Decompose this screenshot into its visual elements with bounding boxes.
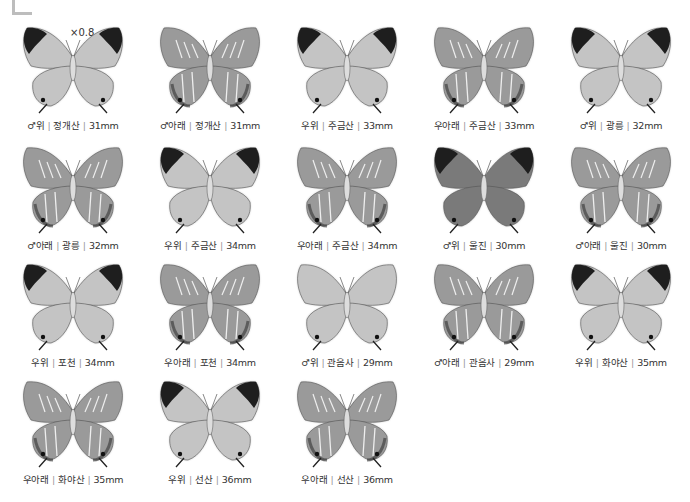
separator: | — [600, 120, 603, 131]
specimen-caption: 우아래|화야산|35mm — [10, 472, 136, 486]
sex-side: 우위 — [575, 357, 593, 368]
specimen-card: 우위|선산|36mm — [147, 372, 273, 492]
separator: | — [322, 120, 325, 131]
specimen-card: 우아래|주금산|34mm — [284, 138, 410, 258]
specimen-caption: 우위|주금산|33mm — [284, 118, 410, 132]
locality: 주금산 — [332, 240, 358, 251]
separator: | — [193, 357, 196, 368]
butterfly-image — [154, 18, 266, 114]
locality: 관음사 — [327, 357, 353, 368]
butterfly-image — [291, 18, 403, 114]
specimen-card: 우위|주금산|34mm — [147, 138, 273, 258]
specimen-caption: ♂아래|울진|30mm — [558, 238, 684, 252]
locality: 선산 — [337, 474, 355, 485]
sex-side: 우위 — [301, 120, 319, 131]
locality: 포천 — [58, 357, 76, 368]
separator: | — [216, 474, 219, 485]
size: 31mm — [89, 120, 119, 131]
size: 36mm — [222, 474, 252, 485]
butterfly-image — [154, 138, 266, 234]
specimen-caption: ♂아래|관음사|29mm — [421, 355, 547, 369]
specimen-card: ♂위|정개산|31mm — [10, 18, 136, 138]
sex-side: ♂위 — [27, 120, 44, 131]
size: 35mm — [94, 474, 124, 485]
size: 30mm — [637, 240, 667, 251]
butterfly-image — [17, 18, 129, 114]
butterfly-image — [154, 372, 266, 468]
butterfly-image — [17, 372, 129, 468]
size: 33mm — [505, 120, 535, 131]
specimen-caption: ♂위|정개산|31mm — [10, 118, 136, 132]
specimen-card: ♂위|관음사|29mm — [284, 255, 410, 375]
butterfly-image — [154, 255, 266, 351]
separator: | — [224, 120, 227, 131]
specimen-card: ♂아래|광릉|32mm — [10, 138, 136, 258]
size: 33mm — [363, 120, 393, 131]
size: 34mm — [226, 240, 256, 251]
separator: | — [220, 357, 223, 368]
specimen-card: ♂위|울진|30mm — [421, 138, 547, 258]
locality: 관음사 — [469, 357, 495, 368]
specimen-card: 우위|포천|34mm — [10, 255, 136, 375]
separator: | — [83, 120, 86, 131]
specimen-card: ♂아래|관음사|29mm — [421, 255, 547, 375]
specimen-caption: 우아래|주금산|34mm — [284, 238, 410, 252]
separator: | — [631, 240, 634, 251]
separator: | — [189, 474, 192, 485]
separator: | — [321, 357, 324, 368]
sex-side: ♂위 — [301, 357, 318, 368]
butterfly-image — [428, 138, 540, 234]
separator: | — [463, 120, 466, 131]
specimen-card: 우위|화야산|35mm — [558, 255, 684, 375]
specimen-caption: ♂아래|정개산|31mm — [147, 118, 273, 132]
specimen-caption: ♂위|울진|30mm — [421, 238, 547, 252]
sex-side: 우위 — [31, 357, 49, 368]
locality: 주금산 — [328, 120, 354, 131]
size: 34mm — [226, 357, 256, 368]
separator: | — [357, 120, 360, 131]
sex-side: 우아래 — [301, 474, 327, 485]
separator: | — [357, 357, 360, 368]
butterfly-image — [565, 18, 677, 114]
size: 30mm — [495, 240, 525, 251]
locality: 화야산 — [602, 357, 628, 368]
separator: | — [463, 357, 466, 368]
butterfly-image — [565, 138, 677, 234]
sex-side: 우아래 — [164, 357, 190, 368]
separator: | — [489, 240, 492, 251]
size: 34mm — [368, 240, 398, 251]
locality: 광릉 — [606, 120, 624, 131]
separator: | — [47, 120, 50, 131]
sex-side: 우아래 — [23, 474, 49, 485]
locality: 정개산 — [195, 120, 221, 131]
separator: | — [631, 357, 634, 368]
size: 35mm — [637, 357, 667, 368]
specimen-caption: 우위|포천|34mm — [10, 355, 136, 369]
specimen-card: ♂아래|정개산|31mm — [147, 18, 273, 138]
specimen-card: ♂아래|울진|30mm — [558, 138, 684, 258]
locality: 선산 — [195, 474, 213, 485]
size: 32mm — [89, 240, 119, 251]
sex-side: ♂아래 — [575, 240, 601, 251]
locality: 화야산 — [58, 474, 84, 485]
separator: | — [52, 357, 55, 368]
butterfly-image — [428, 18, 540, 114]
locality: 울진 — [469, 240, 487, 251]
separator: | — [330, 474, 333, 485]
sex-side: ♂위 — [443, 240, 460, 251]
specimen-card: 우아래|화야산|35mm — [10, 372, 136, 492]
specimen-caption: 우위|화야산|35mm — [558, 355, 684, 369]
specimen-card: ♂위|광릉|32mm — [558, 18, 684, 138]
specimen-caption: ♂아래|광릉|32mm — [10, 238, 136, 252]
separator: | — [498, 357, 501, 368]
sex-side: 우아래 — [434, 120, 460, 131]
butterfly-image — [291, 255, 403, 351]
size: 36mm — [363, 474, 393, 485]
locality: 주금산 — [191, 240, 217, 251]
separator: | — [499, 120, 502, 131]
sex-side: 우아래 — [297, 240, 323, 251]
separator: | — [357, 474, 360, 485]
size: 29mm — [363, 357, 393, 368]
locality: 울진 — [610, 240, 628, 251]
locality: 주금산 — [469, 120, 495, 131]
